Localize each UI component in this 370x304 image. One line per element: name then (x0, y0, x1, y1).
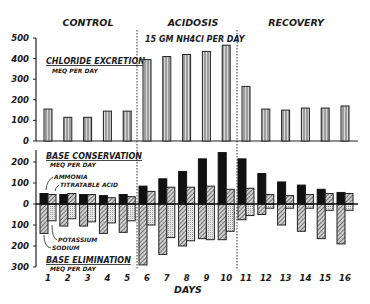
titratable-acid-bar (226, 189, 234, 204)
sodium-bar (139, 204, 147, 265)
titratable-acid-bar (305, 195, 313, 204)
sodium-bar (278, 204, 286, 225)
chloride-bar (143, 60, 151, 141)
day-label: 10 (220, 273, 232, 283)
y-tick: 300 (11, 74, 29, 84)
y-tick: 100 (11, 115, 29, 125)
titratable-acid-bar (266, 195, 274, 204)
day-label: 16 (339, 273, 351, 283)
base-bars (36, 153, 358, 265)
titratable-acid-bar (187, 187, 195, 204)
sodium-bar (99, 204, 107, 233)
sodium-bar (60, 204, 68, 226)
y-tick: 100 (11, 178, 29, 188)
potassium-bar (187, 204, 195, 241)
day-label: 11 (240, 273, 252, 283)
sodium-bar (40, 204, 48, 233)
day-label: 8 (184, 273, 190, 283)
sodium-bar (80, 204, 88, 226)
sodium-bar (258, 204, 266, 215)
ammonia-bar (317, 189, 325, 204)
day-label: 14 (299, 273, 311, 283)
potassium-label: POTASSIUM (58, 236, 97, 243)
day-label: 4 (103, 273, 110, 283)
potassium-bar (48, 204, 56, 221)
x-axis-title: DAYS (174, 284, 202, 295)
titratable-acid-bar (167, 187, 175, 204)
titratable-acid-bar (246, 188, 254, 204)
titratable-acid-bar (345, 194, 353, 205)
phase-labels: CONTROLACIDOSISRECOVERY15 GM NH4Cl PER D… (63, 17, 325, 44)
base-conservation-units: MEQ PER DAY (50, 161, 96, 168)
day-label: 15 (319, 273, 331, 283)
potassium-bar (88, 204, 96, 222)
day-label: 1 (45, 273, 51, 283)
y-tick: 0 (23, 136, 29, 146)
day-label: 7 (164, 273, 170, 283)
titratable-acid-bar (206, 186, 214, 204)
potassium-bar (167, 204, 175, 238)
chloride-bar (262, 109, 270, 141)
sodium-bar (337, 204, 345, 244)
base-elimination-units: MEQ PER DAY (50, 265, 96, 272)
ammonia-bar (99, 196, 107, 204)
potassium-bar (107, 204, 115, 223)
day-label: 6 (144, 273, 150, 283)
day-label: 3 (85, 273, 91, 283)
titratable-acid-bar (107, 198, 115, 204)
ammonia-bar (119, 195, 127, 204)
acidosis-note: 15 GM NH4Cl PER DAY (145, 35, 246, 44)
titratable-acid-bar (68, 194, 76, 205)
sodium-bar (119, 204, 127, 232)
titratable-acid-bar (127, 197, 135, 204)
potassium-bar (206, 204, 214, 240)
chloride-units: MEQ PER DAY (52, 67, 98, 74)
ammonia-bar (278, 182, 286, 204)
acidosis-chart: CONTROLACIDOSISRECOVERY15 GM NH4Cl PER D… (0, 0, 370, 304)
day-label: 13 (280, 273, 292, 283)
potassium-bar (246, 204, 254, 216)
y-tick: 500 (11, 33, 29, 43)
titratable-acid-label: TITRATABLE ACID (60, 181, 118, 188)
ammonia-bar (198, 159, 206, 204)
base-conservation-title: BASE CONSERVATION (46, 152, 142, 161)
ammonia-bar (258, 174, 266, 204)
potassium-bar (345, 204, 353, 210)
ammonia-bar (297, 185, 305, 204)
day-label: 5 (124, 273, 130, 283)
chloride-bar (64, 117, 72, 141)
potassium-bar (68, 204, 76, 219)
chloride-bar (123, 111, 131, 141)
chloride-bar (321, 108, 329, 141)
base-elimination-title: BASE ELIMINATION (46, 256, 131, 265)
ammonia-bar (139, 186, 147, 204)
ammonia-bar (337, 192, 345, 204)
chloride-bar (44, 109, 52, 141)
days-axis: 12345678910111213141516DAYS (45, 273, 351, 295)
chloride-bar (222, 45, 230, 141)
chloride-bar (183, 54, 191, 141)
titratable-acid-bar (48, 195, 56, 204)
chloride-bar (202, 51, 210, 141)
day-label: 9 (203, 273, 209, 283)
chloride-bar (301, 108, 309, 141)
phase-control: CONTROL (63, 17, 114, 28)
chloride-bar (242, 86, 250, 141)
y-tick: 300 (11, 262, 29, 272)
phase-recovery: RECOVERY (268, 17, 325, 28)
ammonia-bar (40, 194, 48, 205)
sodium-bar (238, 204, 246, 220)
titratable-acid-bar (88, 195, 96, 204)
potassium-bar (226, 204, 234, 231)
sodium-bar (297, 204, 305, 231)
sodium-bar (218, 204, 226, 240)
ammonia-bar (60, 195, 68, 204)
y-tick: 200 (11, 241, 29, 251)
ammonia-bar (218, 153, 226, 204)
y-tick: 200 (11, 157, 29, 167)
y-tick: 0 (23, 199, 29, 209)
chloride-bar (84, 117, 92, 141)
chloride-bar (341, 106, 349, 141)
y-tick: 100 (11, 220, 29, 230)
titratable-acid-bar (286, 196, 294, 204)
